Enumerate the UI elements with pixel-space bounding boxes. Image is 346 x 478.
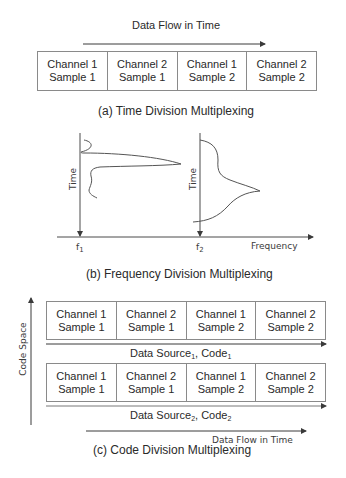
tick-f1-sub: 1 — [79, 246, 83, 254]
cdm-row2-source-label: Data Source2, Code2 — [130, 409, 231, 425]
cell-sample: Sample 2 — [267, 383, 313, 396]
cell-channel: Channel 1 — [196, 370, 246, 383]
cell-channel: Channel 1 — [56, 308, 106, 321]
source-text: Data Source — [130, 409, 191, 421]
cell-sample: Sample 2 — [198, 321, 244, 334]
cell-channel: Channel 2 — [126, 308, 176, 321]
fdm-caption: (b) Frequency Division Multiplexing — [86, 267, 273, 281]
cdm-cell: Channel 2 Sample 2 — [256, 302, 325, 339]
cell-sample: Sample 1 — [58, 321, 104, 334]
cell-sample: Sample 1 — [128, 321, 174, 334]
cell-channel: Channel 2 — [266, 370, 316, 383]
code-text: , Code — [195, 409, 227, 421]
source-text: Data Source — [130, 347, 191, 359]
cdm-cell: Channel 1 Sample 1 — [47, 302, 117, 339]
cell-sample: Sample 2 — [267, 321, 313, 334]
cdm-row2-sequence: Channel 1 Sample 1 Channel 2 Sample 1 Ch… — [46, 363, 326, 402]
tick-f2: f2 — [196, 242, 204, 254]
cdm-cell: Channel 2 Sample 2 — [256, 364, 325, 401]
cell-channel: Channel 2 — [266, 308, 316, 321]
time-axis-2-label: Time — [188, 168, 198, 190]
tick-f1: f1 — [76, 242, 84, 254]
code-space-label: Code Space — [18, 321, 28, 377]
frequency-axis-label: Frequency — [251, 241, 298, 251]
cdm-caption: (c) Code Division Multiplexing — [93, 443, 251, 457]
cell-channel: Channel 2 — [126, 370, 176, 383]
tick-f2-sub: 2 — [199, 246, 203, 254]
cell-channel: Channel 1 — [196, 308, 246, 321]
cdm-cell: Channel 1 Sample 1 — [47, 364, 117, 401]
code-sub: 1 — [227, 353, 231, 360]
fdm-graph — [0, 0, 346, 478]
signal-curve-2 — [193, 140, 260, 222]
cdm-row1-sequence: Channel 1 Sample 1 Channel 2 Sample 1 Ch… — [46, 301, 326, 340]
time-axis-1-label: Time — [68, 168, 78, 190]
code-text: , Code — [195, 347, 227, 359]
cell-sample: Sample 1 — [128, 383, 174, 396]
cdm-row1-source-label: Data Source1, Code1 — [130, 347, 231, 363]
cell-sample: Sample 2 — [198, 383, 244, 396]
cdm-cell: Channel 1 Sample 2 — [187, 302, 257, 339]
cdm-cell: Channel 2 Sample 1 — [117, 364, 187, 401]
code-sub: 2 — [227, 415, 231, 422]
cell-sample: Sample 1 — [58, 383, 104, 396]
cell-channel: Channel 1 — [56, 370, 106, 383]
cdm-cell: Channel 2 Sample 1 — [117, 302, 187, 339]
cdm-cell: Channel 1 Sample 2 — [187, 364, 257, 401]
signal-curve-1 — [81, 140, 181, 198]
